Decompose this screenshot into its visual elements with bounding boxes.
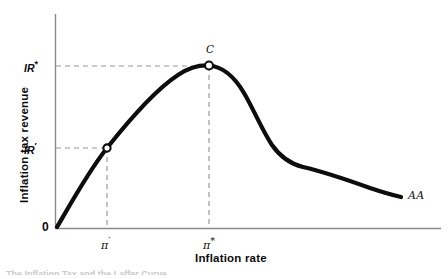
point-pi-prime-marker <box>103 144 110 151</box>
x-tick-pi-star-sup: * <box>210 235 215 246</box>
curve-label-aa: AA <box>408 190 425 201</box>
curve-markers <box>103 62 213 152</box>
origin-label: 0 <box>42 221 49 233</box>
y-tick-ir-prime-sup: ′ <box>35 141 37 151</box>
guide-lines <box>56 66 209 228</box>
inflation-tax-laffer-curve-figure: Inflation tax revenue Inflation rate 0 I… <box>0 0 448 279</box>
y-tick-ir-prime-base: IR <box>24 144 35 156</box>
chart-canvas <box>0 0 448 279</box>
x-axis-title: Inflation rate <box>195 253 267 265</box>
y-tick-ir-star-sup: * <box>35 59 39 69</box>
axes <box>55 14 441 229</box>
x-tick-pi-prime-sup: ′ <box>108 235 110 246</box>
y-tick-ir-star-base: IR <box>24 62 35 74</box>
y-tick-label-ir-star: IR* <box>24 60 38 73</box>
caption-sliver: The Inflation Tax and the Laffer Curve <box>6 269 221 275</box>
point-c-marker <box>205 62 213 70</box>
x-tick-label-pi-star: π* <box>203 236 215 251</box>
point-c-label: C <box>206 44 214 55</box>
x-tick-label-pi-prime: π′ <box>101 236 110 251</box>
y-tick-label-ir-prime: IR′ <box>24 142 37 155</box>
